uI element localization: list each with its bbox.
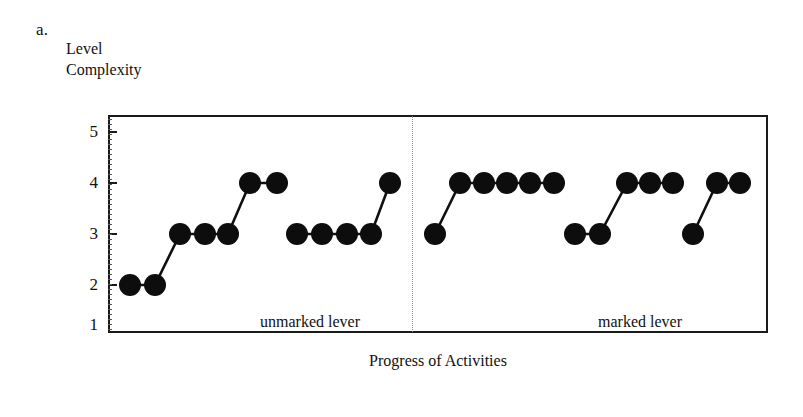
y-axis-minor-tick [108,259,112,260]
y-axis-title-line-2: Complexity [66,59,142,80]
y-axis-minor-tick [108,169,112,170]
y-tick-label-3: 3 [74,224,98,244]
y-axis-title-line-1: Level [66,38,142,59]
y-tick-mark-5 [108,131,117,133]
y-tick-label-5: 5 [74,122,98,142]
y-axis-minor-tick [108,214,112,215]
y-axis-minor-tick [108,124,112,125]
y-axis-minor-tick [108,229,112,230]
y-axis-minor-tick [108,184,112,185]
y-axis-minor-tick [108,174,112,175]
y-axis-minor-tick [108,234,112,235]
figure-container: a. Level Complexity 12345 unmarked lever… [0,0,803,417]
y-axis-minor-tick [108,289,112,290]
x-axis-title: Progress of Activities [108,352,768,370]
y-axis-minor-tick [108,204,112,205]
y-tick-label-4: 4 [74,173,98,193]
group-label-marked-lever: marked lever [598,313,682,331]
y-axis-title: Level Complexity [66,38,142,80]
y-axis-minor-tick [108,129,112,130]
y-axis-minor-tick [108,224,112,225]
condition-divider [412,116,413,332]
y-axis-minor-tick [108,249,112,250]
y-axis-minor-tick [108,329,112,330]
y-axis-minor-tick [108,264,112,265]
y-axis-minor-tick [108,319,112,320]
y-axis-minor-tick [108,324,112,325]
y-axis-minor-tick [108,154,112,155]
y-axis-minor-tick [108,179,112,180]
y-axis-minor-tick [108,189,112,190]
y-axis-minor-tick [108,139,112,140]
y-axis-minor-tick [108,239,112,240]
y-axis-minor-tick [108,119,112,120]
y-axis-minor-tick [108,314,112,315]
y-axis-minor-tick [108,304,112,305]
y-tick-label-1: 1 [74,315,98,335]
y-axis-minor-tick [108,294,112,295]
y-axis-minor-tick [108,254,112,255]
y-axis-minor-tick [108,219,112,220]
y-tick-label-2: 2 [74,275,98,295]
group-label-unmarked-lever: unmarked lever [260,313,360,331]
y-axis-minor-tick [108,164,112,165]
y-axis-minor-tick [108,299,112,300]
y-axis-minor-tick [108,199,112,200]
y-axis-minor-tick [108,284,112,285]
y-axis-minor-tick [108,279,112,280]
y-axis-minor-tick [108,149,112,150]
plot-frame [108,115,768,333]
panel-label: a. [36,20,48,40]
y-axis-minor-tick [108,194,112,195]
y-axis-minor-tick [108,244,112,245]
y-axis-minor-tick [108,159,112,160]
y-axis-minor-tick [108,269,112,270]
y-axis-minor-tick [108,274,112,275]
y-axis-minor-tick [108,209,112,210]
y-axis-minor-tick [108,134,112,135]
y-axis-minor-tick [108,309,112,310]
y-axis-minor-tick [108,144,112,145]
